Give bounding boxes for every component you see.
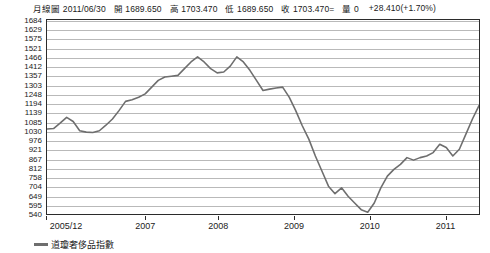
price-line-series (47, 57, 479, 212)
y-axis-tick-label: 1521 (24, 45, 42, 53)
open-label: 開 (114, 2, 123, 14)
y-axis-tick-label: 540 (29, 211, 42, 219)
y-axis-tick-label: 1303 (24, 82, 42, 90)
y-axis-tick-label: 812 (29, 165, 42, 173)
chart-legend: 道瓊奢侈品指數 (34, 238, 114, 251)
change-value: +28.410(+1.70%) (369, 3, 436, 13)
y-axis-tick-label: 704 (29, 183, 42, 191)
x-axis-tick-label: 2005/12 (50, 221, 83, 231)
close-group: 收 1703.470= (281, 2, 342, 14)
y-axis-tick-label: 976 (29, 137, 42, 145)
y-axis-tick-label: 1357 (24, 72, 42, 80)
y-axis-tick-label: 1194 (25, 100, 42, 108)
high-value: 1703.470 (181, 4, 217, 14)
open-group: 開 1689.650 (114, 2, 170, 14)
low-label: 低 (225, 2, 234, 14)
chart-type-group: 月線圖 2011/06/30 (33, 2, 114, 14)
high-group: 高 1703.470 (170, 2, 226, 14)
chart-plot-area[interactable] (46, 19, 480, 215)
quote-header-bar: 月線圖 2011/06/30 開 1689.650 高 1703.470 低 1… (0, 0, 490, 16)
x-axis-tick-label: 2009 (284, 221, 304, 231)
y-axis-tick-label: 1139 (25, 109, 42, 117)
low-value: 1689.650 (237, 4, 273, 14)
price-line-svg (47, 20, 479, 214)
y-axis-tick-label: 1466 (24, 54, 42, 62)
low-group: 低 1689.650 (225, 2, 281, 14)
x-axis-tick-mark (46, 216, 47, 220)
x-axis-tick-label: 2010 (360, 221, 380, 231)
x-axis: 2005/1220072008200920102011 (46, 216, 480, 236)
y-axis-tick-label: 1030 (24, 128, 42, 136)
x-axis-tick-mark (446, 216, 447, 220)
high-label: 高 (170, 2, 179, 14)
open-value: 1689.650 (125, 4, 161, 14)
y-axis-tick-label: 867 (29, 156, 42, 164)
y-axis: 1684162915751521146614121357130312481194… (0, 19, 44, 215)
y-axis-tick-label: 921 (29, 146, 42, 154)
x-axis-tick-mark (145, 216, 146, 220)
legend-label: 道瓊奢侈品指數 (51, 238, 114, 251)
x-axis-tick-mark (218, 216, 219, 220)
volume-group: 量 0 (342, 2, 366, 14)
quote-date: 2011/06/30 (63, 4, 106, 14)
y-axis-tick-label: 1575 (24, 35, 42, 43)
y-axis-tick-label: 1085 (24, 119, 42, 127)
y-axis-tick-label: 1248 (24, 91, 42, 99)
close-label: 收 (281, 2, 290, 14)
volume-label: 量 (342, 2, 351, 14)
y-axis-tick-label: 1412 (24, 63, 42, 71)
y-axis-tick-label: 1684 (24, 17, 42, 25)
x-axis-tick-label: 2007 (135, 221, 155, 231)
y-axis-tick-label: 649 (29, 193, 42, 201)
close-value: 1703.470= (293, 4, 334, 14)
y-axis-tick-label: 1629 (24, 26, 42, 34)
x-axis-tick-label: 2011 (436, 221, 455, 231)
chart-type-label: 月線圖 (33, 2, 60, 14)
x-axis-tick-mark (370, 216, 371, 220)
volume-value: 0 (354, 4, 359, 14)
legend-color-swatch (34, 243, 48, 246)
y-axis-tick-label: 758 (29, 174, 42, 182)
series-layer (47, 20, 479, 214)
x-axis-tick-label: 2008 (208, 221, 228, 231)
y-axis-tick-label: 595 (29, 202, 42, 210)
x-axis-tick-mark (294, 216, 295, 220)
